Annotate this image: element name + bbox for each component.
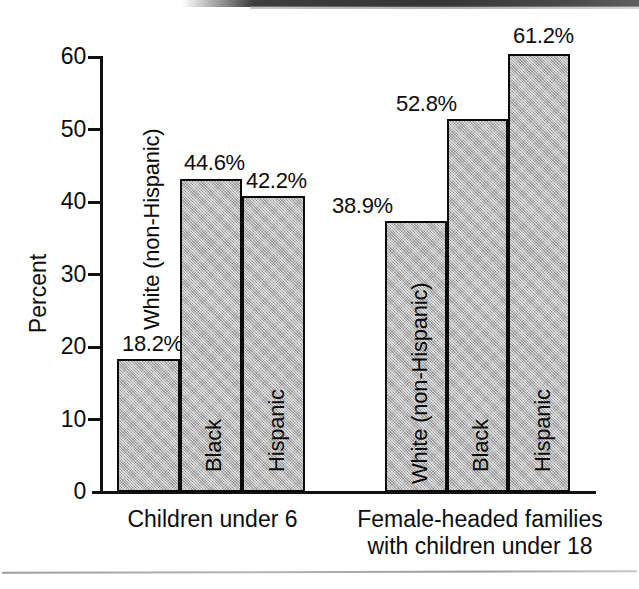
y-tick-50 bbox=[88, 128, 101, 131]
bar-value-female-headed-white: 38.9% bbox=[332, 195, 393, 217]
y-tick-0 bbox=[92, 491, 101, 494]
bar-inner-label-children-under-6-hispanic: Hispanic bbox=[266, 389, 288, 472]
group-caption-children-under-6: Children under 6 bbox=[90, 506, 335, 533]
bar-inner-label-children-under-6-black: Black bbox=[203, 419, 225, 472]
bar-chart: Percent 60 50 40 30 20 10 0 18.2% White … bbox=[0, 0, 639, 589]
bar-inner-label-female-headed-hispanic: Hispanic bbox=[532, 389, 554, 472]
bar-value-children-under-6-white: 18.2% bbox=[122, 333, 183, 355]
y-tick-label-group: 60 50 40 30 20 10 0 bbox=[30, 0, 86, 589]
bar-children-under-6-white[interactable] bbox=[117, 359, 180, 492]
y-tick-60 bbox=[88, 56, 101, 59]
y-tick-20 bbox=[88, 346, 101, 349]
y-tick-40 bbox=[88, 201, 101, 204]
bar-value-children-under-6-black: 44.6% bbox=[184, 152, 245, 174]
y-tick-10 bbox=[88, 418, 101, 421]
bar-value-female-headed-hispanic: 61.2% bbox=[513, 25, 574, 47]
bar-inner-label-female-headed-black: Black bbox=[470, 419, 492, 472]
y-tick-label-60: 60 bbox=[42, 45, 86, 68]
bar-inner-label-female-headed-white: White (non-Hispanic) bbox=[409, 283, 431, 484]
y-tick-label-40: 40 bbox=[42, 190, 86, 213]
bar-inner-label-children-under-6-white: White (non-Hispanic) bbox=[141, 129, 163, 330]
y-tick-label-10: 10 bbox=[42, 408, 86, 431]
y-tick-label-30: 30 bbox=[42, 263, 86, 286]
bar-value-female-headed-black: 52.8% bbox=[396, 93, 457, 115]
y-tick-label-50: 50 bbox=[42, 118, 86, 141]
y-tick-30 bbox=[88, 273, 101, 276]
bar-value-children-under-6-hispanic: 42.2% bbox=[246, 170, 307, 192]
group-caption-female-headed-families: Female-headed families with children und… bbox=[355, 506, 605, 560]
y-tick-label-20: 20 bbox=[42, 335, 86, 358]
y-tick-label-0: 0 bbox=[42, 480, 86, 503]
